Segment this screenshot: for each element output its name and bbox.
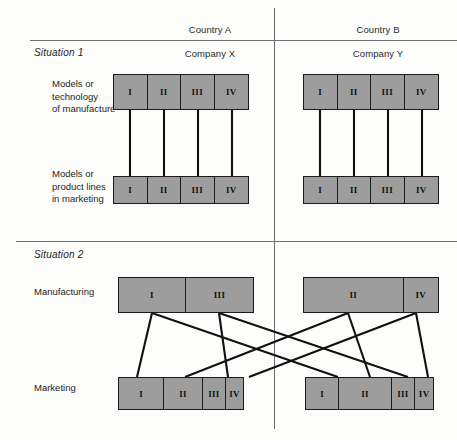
cell-s1-mfg-b-3[interactable]: III — [371, 75, 405, 109]
cell-s1-mkt-a-4[interactable]: IV — [215, 177, 248, 203]
links-situation-1-country-a — [130, 110, 232, 176]
cell-s2-mkt-a-3[interactable]: III — [203, 378, 227, 409]
links-situation-1-country-b — [320, 110, 422, 176]
situation-2-rule — [16, 241, 457, 242]
column-header-country-a: Country A Company X — [150, 12, 270, 60]
boxrow-s2-marketing-country-a: I II III IV — [118, 377, 244, 410]
boxrow-s1-manufacture-country-b: I II III IV — [303, 74, 439, 110]
country-a-line1: Country A — [189, 24, 232, 35]
cell-s1-mfg-b-2[interactable]: II — [338, 75, 372, 109]
boxrow-s1-marketing-country-b: I II III IV — [303, 176, 439, 204]
cell-s1-mkt-a-2[interactable]: II — [148, 177, 182, 203]
cell-s2-mfg-b-2[interactable]: IV — [404, 278, 438, 312]
boxrow-s1-marketing-country-a: I II III IV — [113, 176, 249, 204]
cell-s2-mkt-b-3[interactable]: III — [392, 378, 416, 409]
cell-s1-mfg-a-3[interactable]: III — [181, 75, 215, 109]
connector-lines — [0, 0, 457, 440]
column-header-country-b: Country B Company Y — [318, 12, 438, 60]
country-divider-bottom — [274, 233, 275, 429]
cell-s1-mfg-a-1[interactable]: I — [114, 75, 148, 109]
country-divider-top — [274, 8, 275, 233]
cell-s1-mfg-a-4[interactable]: IV — [215, 75, 248, 109]
boxrow-s2-manufacturing-country-a: I III — [118, 277, 254, 313]
cell-s1-mfg-a-2[interactable]: II — [148, 75, 182, 109]
cell-s1-mkt-a-3[interactable]: III — [181, 177, 215, 203]
links-situation-2-from-a-model-3 — [219, 313, 408, 377]
boxrow-s1-manufacture-country-a: I II III IV — [113, 74, 249, 110]
cell-s1-mfg-b-1[interactable]: I — [304, 75, 338, 109]
diagram-figure: Country A Company X Country B Company Y … — [0, 0, 457, 440]
situation-1-label: Situation 1 — [34, 47, 83, 58]
cell-s1-mkt-b-1[interactable]: I — [304, 177, 338, 203]
cell-s2-mkt-a-2[interactable]: II — [164, 378, 202, 409]
cell-s1-mkt-b-4[interactable]: IV — [405, 177, 438, 203]
links-situation-2-from-b-model-4 — [249, 313, 428, 377]
cell-s1-mfg-b-4[interactable]: IV — [405, 75, 438, 109]
cell-s2-mfg-a-1[interactable]: I — [119, 278, 186, 312]
boxrow-s2-marketing-country-b: I II III IV — [305, 377, 434, 410]
cell-s2-mkt-a-4[interactable]: IV — [226, 378, 243, 409]
cell-s1-mkt-b-3[interactable]: III — [371, 177, 405, 203]
cell-s2-mfg-b-1[interactable]: II — [304, 278, 404, 312]
country-a-line2: Company X — [185, 48, 236, 59]
country-b-line2: Company Y — [353, 48, 403, 59]
cell-s2-mfg-a-2[interactable]: III — [186, 278, 253, 312]
cell-s2-mkt-a-1[interactable]: I — [119, 378, 164, 409]
cell-s1-mkt-b-2[interactable]: II — [338, 177, 372, 203]
country-b-line1: Country B — [356, 24, 399, 35]
boxrow-s2-manufacturing-country-b: II IV — [303, 277, 439, 313]
cell-s2-mkt-b-1[interactable]: I — [306, 378, 339, 409]
cell-s2-mkt-b-4[interactable]: IV — [415, 378, 433, 409]
cell-s2-mkt-b-2[interactable]: II — [339, 378, 391, 409]
links-situation-2-from-b-model-2 — [185, 313, 370, 377]
cell-s1-mkt-a-1[interactable]: I — [114, 177, 148, 203]
links-situation-2-from-a-model-1 — [137, 313, 338, 377]
situation-2-label: Situation 2 — [34, 249, 83, 260]
